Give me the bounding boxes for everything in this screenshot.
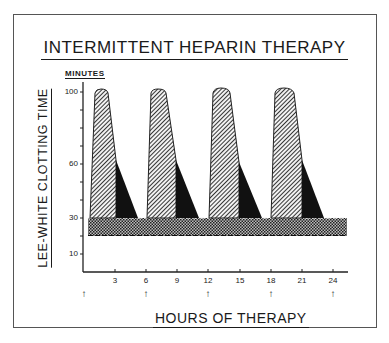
tail-triangle-2 — [176, 160, 199, 218]
y-tick-30: 30 — [56, 213, 78, 222]
x-tick-9: 9 — [167, 276, 187, 285]
x-tick-15: 15 — [230, 276, 250, 285]
dose-peak-2 — [147, 89, 199, 218]
x-tick-12: 12 — [198, 276, 218, 285]
x-tick-6: 6 — [136, 276, 156, 285]
tail-triangle-1 — [116, 160, 138, 218]
dose-arrow-icon-18h: ↑ — [266, 289, 276, 299]
dose-arrow-icon-12h: ↑ — [203, 289, 213, 299]
dose-peak-4 — [271, 88, 324, 218]
dose-arrow-icon-24h: ↑ — [328, 289, 338, 299]
y-tick-60: 60 — [56, 159, 78, 168]
tail-triangle-3 — [239, 162, 262, 218]
therapeutic-band — [88, 218, 347, 236]
dose-arrow-icon-0h: ↑ — [79, 289, 89, 299]
dose-peak-1 — [90, 89, 138, 218]
x-axis-label: HOURS OF THERAPY — [153, 310, 309, 328]
tail-triangle-4 — [302, 160, 324, 218]
x-tick-18: 18 — [261, 276, 281, 285]
y-tick-100: 100 — [56, 87, 78, 96]
y-tick-10: 10 — [56, 249, 78, 258]
dose-arrow-icon-6h: ↑ — [141, 289, 151, 299]
x-tick-21: 21 — [292, 276, 312, 285]
x-tick-24: 24 — [323, 276, 343, 285]
x-tick-3: 3 — [105, 276, 125, 285]
dose-peak-3 — [209, 88, 262, 218]
